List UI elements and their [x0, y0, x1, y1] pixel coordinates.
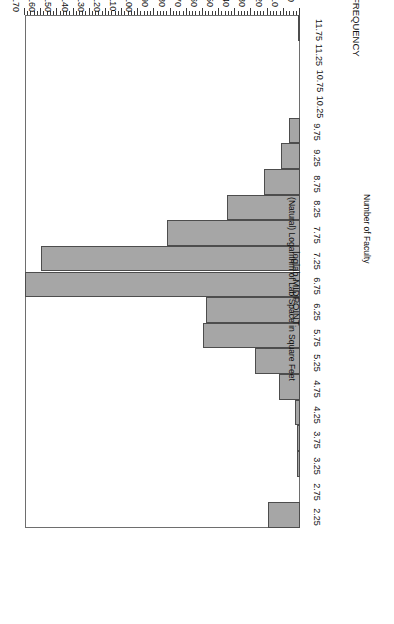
histogram-bar: [25, 15, 300, 41]
frequency-tick: [144, 11, 145, 15]
frequency-tick: [192, 11, 193, 15]
frequency-tick: [267, 8, 268, 15]
bar-7.75: [167, 220, 300, 246]
histogram-bar: [25, 451, 300, 477]
frequency-tick-label: 130: [76, 0, 86, 12]
frequency-tick: [225, 11, 226, 15]
frequency-tick: [40, 8, 41, 15]
bar-2.25: [268, 502, 300, 528]
histogram-bar: [25, 323, 300, 349]
frequency-tick: [179, 11, 180, 15]
midpoint-tick-label: 7.75: [308, 226, 394, 240]
frequency-tick: [140, 11, 141, 15]
histogram-bar: [25, 477, 300, 503]
frequency-tick: [163, 11, 164, 15]
frequency-tick: [260, 11, 261, 15]
frequency-tick: [134, 11, 135, 15]
frequency-tick: [257, 11, 258, 15]
frequency-tick: [195, 11, 196, 15]
frequency-tick-label: 80: [157, 0, 167, 7]
midpoint-tick-label: 2.75: [308, 483, 394, 497]
frequency-tick: [293, 11, 294, 15]
frequency-tick: [176, 11, 177, 15]
bar-9.25: [281, 143, 300, 169]
bar-4.25: [295, 400, 300, 426]
frequency-tick: [299, 8, 300, 15]
frequency-tick: [170, 8, 171, 15]
frequency-tick-label: 40: [221, 0, 231, 7]
frequency-tick-label: 120: [92, 0, 102, 12]
frequency-tick: [254, 11, 255, 15]
midpoint-tick-label: 8.75: [308, 175, 394, 189]
frequency-tick: [231, 11, 232, 15]
midpoint-tick-label: 2.25: [308, 508, 394, 522]
frequency-tick: [166, 11, 167, 15]
histogram-bar: [25, 297, 300, 323]
histogram-bar: [25, 66, 300, 92]
histogram-bar: [25, 195, 300, 221]
frequency-tick: [89, 8, 90, 15]
frequency-tick: [280, 11, 281, 15]
frequency-tick: [215, 11, 216, 15]
histogram-bar: [25, 425, 300, 451]
frequency-tick: [250, 8, 251, 15]
frequency-tick: [24, 8, 25, 15]
frequency-tick: [228, 11, 229, 15]
frequency-tick: [218, 8, 219, 15]
frequency-tick-label: 70: [173, 0, 183, 7]
frequency-tick-label: 20: [254, 0, 264, 7]
frequency-tick: [263, 11, 264, 15]
midpoint-tick-label: 8.25: [308, 200, 394, 214]
histogram-bar: [25, 348, 300, 374]
histogram-bar: [25, 118, 300, 144]
frequency-tick-label: 50: [205, 0, 215, 7]
frequency-tick: [56, 8, 57, 15]
frequency-tick: [73, 8, 74, 15]
frequency-tick-label: 160: [27, 0, 37, 12]
midpoint-tick-label: 10.75: [308, 72, 394, 86]
midpoint-tick-label: 7.25: [308, 252, 394, 266]
bar-8.75: [264, 169, 300, 195]
midpoint-tick-label: 11.75: [308, 21, 394, 35]
x-axis-title: (Natural) Logarithm of Lab Space in Squa…: [287, 197, 297, 381]
bar-3.25: [297, 451, 300, 477]
histogram-bar: [25, 272, 300, 298]
histogram-bar: [25, 246, 300, 272]
frequency-tick: [205, 11, 206, 15]
histogram-bar: [25, 143, 300, 169]
frequency-tick: [105, 8, 106, 15]
bar-7.25: [41, 246, 300, 272]
midpoint-tick-label: 11.25: [308, 46, 394, 60]
frequency-tick: [202, 8, 203, 15]
frequency-tick: [270, 11, 271, 15]
frequency-tick-label: 150: [43, 0, 53, 12]
bar-6.25: [206, 297, 300, 323]
midpoint-tick-label: 4.75: [308, 380, 394, 394]
frequency-tick: [108, 11, 109, 15]
midpoint-tick-label: 6.75: [308, 277, 394, 291]
frequency-tick: [247, 11, 248, 15]
frequency-tick: [183, 11, 184, 15]
bar-6.75: [25, 272, 300, 298]
frequency-tick-label: 10: [270, 0, 280, 7]
bar-11.75: [298, 15, 300, 41]
frequency-tick: [221, 11, 222, 15]
frequency-tick-label: 30: [237, 0, 247, 7]
frequency-tick-label: 170: [11, 0, 21, 12]
frequency-tick: [115, 11, 116, 15]
frequency-tick: [160, 11, 161, 15]
frequency-tick: [296, 11, 297, 15]
midpoint-tick-label: 3.25: [308, 457, 394, 471]
midpoint-tick-label: 5.75: [308, 329, 394, 343]
frequency-tick-label: 60: [189, 0, 199, 7]
histogram-bar: [25, 220, 300, 246]
frequency-tick: [147, 11, 148, 15]
histogram-bar: [25, 400, 300, 426]
frequency-tick: [153, 8, 154, 15]
frequency-tick: [283, 8, 284, 15]
frequency-tick-label: 140: [60, 0, 70, 12]
frequency-tick: [173, 11, 174, 15]
frequency-tick: [244, 11, 245, 15]
midpoint-tick-label: 9.25: [308, 149, 394, 163]
frequency-tick: [157, 11, 158, 15]
